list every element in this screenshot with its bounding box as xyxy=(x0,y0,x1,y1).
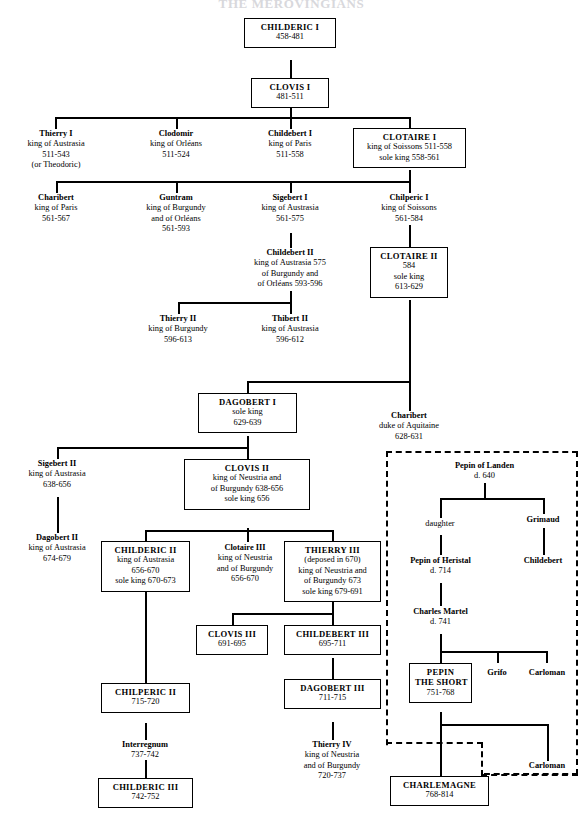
connector-carolingian-bus3 xyxy=(440,724,549,726)
node-childebert1[interactable]: Childebert I king of Paris 511-558 xyxy=(234,129,346,160)
node-charles-martel[interactable]: Charles Martel d. 741 xyxy=(392,607,489,628)
connector-sigebert1-childebert2 xyxy=(290,233,292,248)
node-line-1: 584 xyxy=(376,261,442,271)
connector-gen9-bus xyxy=(145,530,334,532)
node-line-3: sole king 670-673 xyxy=(107,576,184,586)
connector-charles-martel-down xyxy=(440,634,442,652)
node-charibert-aquitaine[interactable]: Charibert duke of Aquitaine 628-631 xyxy=(353,411,465,442)
node-thierry4[interactable]: Thierry IV king of Neustria and of Burgu… xyxy=(276,740,388,782)
node-name: Thierry I xyxy=(0,129,112,139)
node-line-1: king of Neustria xyxy=(276,750,388,760)
node-grifo[interactable]: Grifo xyxy=(477,668,517,678)
node-line-3: 561-593 xyxy=(120,224,232,234)
node-name: Childebert xyxy=(505,556,581,566)
node-name: Thierry IV xyxy=(276,740,388,750)
node-clovis3[interactable]: CLOVIS III 691-695 xyxy=(196,625,268,655)
node-clovis2[interactable]: CLOVIS II king of Neustria and of Burgun… xyxy=(184,459,310,510)
connector-to-daughter xyxy=(440,498,442,518)
node-name: DAGOBERT I xyxy=(204,397,291,407)
node-line-2: 561-567 xyxy=(0,214,112,224)
connector-gen8-sigebert2 xyxy=(57,447,59,459)
connector-gen6-thierry2 xyxy=(178,302,180,314)
node-daughter[interactable]: daughter xyxy=(404,519,476,529)
node-line-2: 511-558 xyxy=(234,150,346,160)
connector-to-pepin-short xyxy=(440,651,442,663)
node-name: CHARLEMAGNE xyxy=(396,780,483,790)
node-clotaire3[interactable]: Clotaire III king of Neustria and of Bur… xyxy=(196,543,294,585)
node-clodomir[interactable]: Clodomir king of Orléans 511-524 xyxy=(120,129,232,160)
dashed-region-notch-mask xyxy=(388,744,484,777)
node-pepin-of-landen[interactable]: Pepin of Landen d. 640 xyxy=(429,461,540,482)
connector-daughter-pepin-heristal xyxy=(440,535,442,555)
node-line-1: 711-715 xyxy=(290,693,375,703)
node-name: CHILPERIC II xyxy=(107,687,184,697)
connector-to-grifo xyxy=(497,651,499,663)
connector-to-grimaud xyxy=(543,498,545,514)
node-thierry2[interactable]: Thierry II king of Burgundy 596-613 xyxy=(122,314,234,345)
node-childeric2[interactable]: CHILDERIC II king of Austrasia 656-670 s… xyxy=(101,541,190,592)
node-line-1: 458-481 xyxy=(250,32,330,42)
connector-gen3-bus xyxy=(55,117,411,119)
node-chilperic2[interactable]: CHILPERIC II 715-720 xyxy=(101,683,190,713)
node-line-1: 737-742 xyxy=(89,750,201,760)
node-line-1: d. 640 xyxy=(429,471,540,481)
page-title: THE MEROVINGIANS xyxy=(0,0,583,12)
connector-to-carloman1 xyxy=(546,651,548,663)
node-line-3: of Orléans 593-596 xyxy=(222,279,358,289)
node-name: Carloman xyxy=(519,761,575,771)
node-childebert3[interactable]: CHILDEBERT III 695-711 xyxy=(284,625,381,655)
node-grimaud[interactable]: Grimaud xyxy=(510,515,576,525)
node-clovis1[interactable]: CLOVIS I 481-511 xyxy=(251,78,329,108)
node-name: Grimaud xyxy=(510,515,576,525)
connector-gen3-clodomir xyxy=(176,117,178,129)
node-dagobert1[interactable]: DAGOBERT I sole king 629-639 xyxy=(198,393,297,433)
connector-gen10-childebert3 xyxy=(332,613,334,625)
node-name: Carloman xyxy=(519,668,575,678)
node-line-1: d. 741 xyxy=(392,617,489,627)
node-clotaire1[interactable]: CLOTAIRE I king of Soissons 511-558 sole… xyxy=(353,128,466,168)
node-line-1: king of Neustria xyxy=(196,553,294,563)
node-sigebert1[interactable]: Sigebert I king of Austrasia 561-575 xyxy=(234,193,346,224)
node-carloman-2[interactable]: Carloman xyxy=(519,761,575,771)
node-line-1: sole king xyxy=(204,407,291,417)
node-childebert-carolingian[interactable]: Childebert xyxy=(505,556,581,566)
node-name: CHILDERIC II xyxy=(107,545,184,555)
node-childeric3[interactable]: CHILDERIC III 742-752 xyxy=(98,778,193,808)
node-childeric1[interactable]: CHILDERIC I 458-481 xyxy=(244,18,336,48)
node-name: CHILDERIC III xyxy=(104,782,187,792)
node-name: Clodomir xyxy=(120,129,232,139)
node-name: CLOTAIRE I xyxy=(359,132,460,142)
node-pepin-the-short[interactable]: PEPIN THE SHORT 751-768 xyxy=(409,663,472,703)
node-name: Charles Martel xyxy=(392,607,489,617)
node-dagobert3[interactable]: DAGOBERT III 711-715 xyxy=(284,679,381,709)
node-charlemagne[interactable]: CHARLEMAGNE 768-814 xyxy=(390,776,489,806)
node-name: Interregnum xyxy=(89,740,201,750)
node-line-1: king of Austrasia 575 xyxy=(222,258,358,268)
connector-pepin-landen-down xyxy=(484,483,486,499)
node-childebert2[interactable]: Childebert II king of Austrasia 575 of B… xyxy=(222,248,358,290)
node-line-2: 596-613 xyxy=(122,335,234,345)
node-line-1: king of Soissons 511-558 xyxy=(359,142,460,152)
node-line-2: 561-584 xyxy=(353,214,465,224)
node-chilperic1[interactable]: Chilperic I king of Soissons 561-584 xyxy=(353,193,465,224)
node-name: Sigebert II xyxy=(1,459,113,469)
node-name: Charibert xyxy=(353,411,465,421)
node-thierry3[interactable]: THIERRY III (deposed in 670) king of Neu… xyxy=(284,541,381,602)
node-thibert2[interactable]: Thibert II king of Austrasia 596-612 xyxy=(234,314,346,345)
connector-childebert3-dagobert3 xyxy=(332,658,334,679)
node-line-1: (deposed in 670) xyxy=(290,555,375,565)
node-carloman-1[interactable]: Carloman xyxy=(519,668,575,678)
node-line-3: (or Theodoric) xyxy=(0,160,112,170)
node-name: Dagobert II xyxy=(1,533,113,543)
node-line-3: 656-670 xyxy=(196,574,294,584)
connector-gen4-chilperic1 xyxy=(409,181,411,193)
node-pepin-of-heristal[interactable]: Pepin of Heristal d. 714 xyxy=(389,556,492,577)
node-interregnum[interactable]: Interregnum 737-742 xyxy=(89,740,201,761)
node-guntram[interactable]: Guntram king of Burgundy and of Orléans … xyxy=(120,193,232,235)
node-thierry1[interactable]: Thierry I king of Austrasia 511-543 (or … xyxy=(0,129,112,171)
node-clotaire2[interactable]: CLOTAIRE II 584 sole king 613-629 xyxy=(370,247,448,298)
node-charibert[interactable]: Charibert king of Paris 561-567 xyxy=(0,193,112,224)
node-name: Childebert II xyxy=(222,248,358,258)
node-dagobert2[interactable]: Dagobert II king of Austrasia 674-679 xyxy=(1,533,113,564)
node-sigebert2[interactable]: Sigebert II king of Austrasia 638-656 xyxy=(1,459,113,490)
